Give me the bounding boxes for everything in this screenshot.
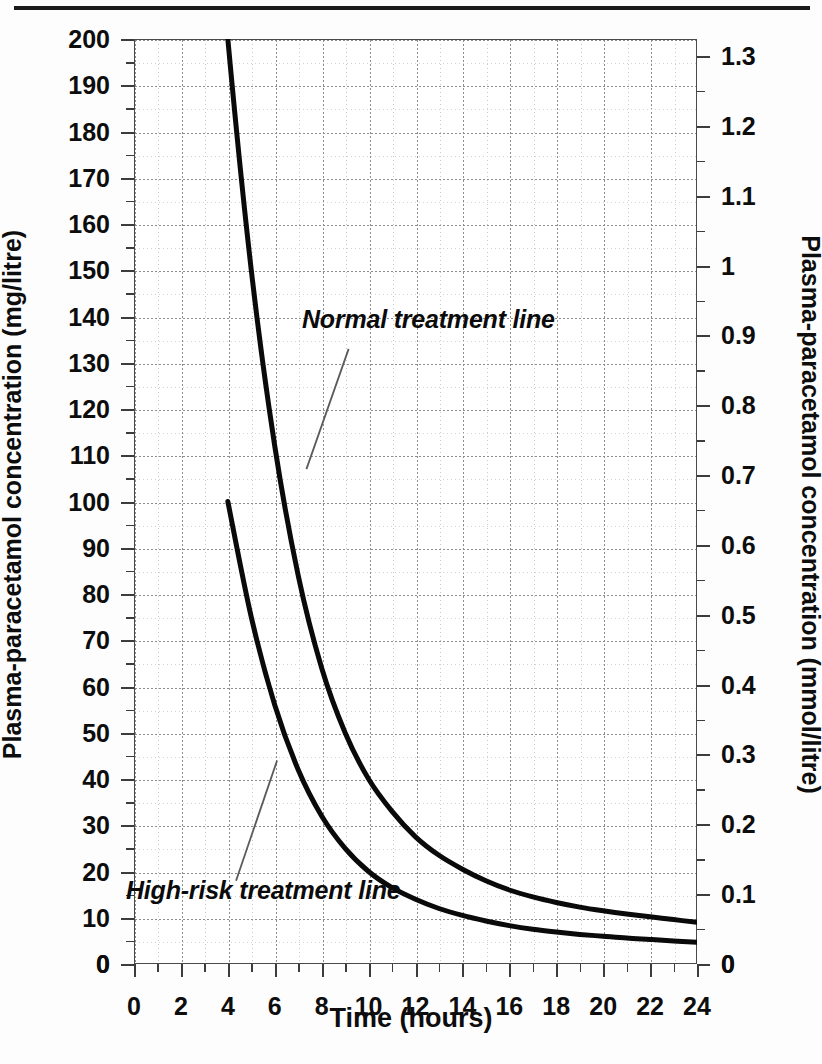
y-axis-tick-left bbox=[121, 825, 134, 827]
x-axis-tick bbox=[322, 964, 324, 977]
y-axis-tick-right-minor bbox=[697, 161, 705, 162]
y-axis-tick-left bbox=[126, 710, 134, 711]
annotation-normal-treatment-line: Normal treatment line bbox=[302, 305, 555, 334]
y-axis-tick-right bbox=[697, 405, 710, 407]
y-axis-tick-right-minor bbox=[697, 929, 705, 930]
y-axis-tick-left bbox=[121, 363, 134, 365]
x-axis-tick bbox=[674, 964, 675, 972]
y-axis-tick-right bbox=[697, 824, 710, 826]
y-axis-tick-label-right: 1.2 bbox=[721, 113, 811, 138]
x-axis-tick bbox=[228, 964, 230, 977]
x-axis-tick bbox=[416, 964, 418, 977]
x-axis-tick bbox=[556, 964, 558, 977]
x-axis-tick bbox=[627, 964, 628, 972]
y-axis-tick-left bbox=[121, 455, 134, 457]
y-axis-tick-left bbox=[121, 224, 134, 226]
y-axis-tick-left bbox=[126, 386, 134, 387]
x-axis-tick bbox=[697, 964, 699, 977]
y-axis-tick-right bbox=[697, 196, 710, 198]
normal-treatment-curve bbox=[217, 39, 697, 922]
y-axis-tick-label-left: 190 bbox=[0, 73, 110, 98]
y-axis-tick-left bbox=[121, 409, 134, 411]
x-axis-tick bbox=[580, 964, 581, 972]
y-axis-origin-label-right: 0 bbox=[721, 952, 811, 977]
y-axis-tick-right-minor bbox=[697, 91, 705, 92]
y-axis-tick-right-minor bbox=[697, 650, 705, 651]
y-axis-tick-left bbox=[121, 270, 134, 272]
y-axis-tick-right bbox=[697, 266, 710, 268]
y-axis-tick-right-minor bbox=[697, 720, 705, 721]
x-axis-tick bbox=[439, 964, 440, 972]
y-axis-tick-left bbox=[126, 247, 134, 248]
y-axis-tick-left bbox=[126, 62, 134, 63]
y-axis-tick-right bbox=[697, 126, 710, 128]
y-axis-tick-left bbox=[121, 502, 134, 504]
x-axis-tick bbox=[533, 964, 534, 972]
annotation-high-risk-treatment-line: High-risk treatment line bbox=[126, 876, 400, 905]
y-axis-tick-label-right: 1.3 bbox=[721, 44, 811, 69]
y-axis-tick-right bbox=[697, 475, 710, 477]
x-axis-tick bbox=[275, 964, 277, 977]
y-axis-tick-left bbox=[121, 85, 134, 87]
y-axis-tick-right-minor bbox=[697, 370, 705, 371]
y-axis-tick-left bbox=[126, 848, 134, 849]
x-axis-tick bbox=[369, 964, 371, 977]
y-axis-tick-right-minor bbox=[697, 859, 705, 860]
y-axis-origin-label-left: 0 bbox=[0, 952, 110, 977]
y-axis-tick-left bbox=[121, 594, 134, 596]
y-axis-tick-label-left: 180 bbox=[0, 119, 110, 144]
y-axis-tick-right-minor bbox=[697, 301, 705, 302]
y-axis-tick-left bbox=[121, 733, 134, 735]
y-axis-tick-left bbox=[121, 548, 134, 550]
y-axis-tick-left bbox=[121, 39, 134, 41]
y-axis-tick-right-minor bbox=[697, 580, 705, 581]
y-axis-tick-right bbox=[697, 545, 710, 547]
y-axis-title-right: Plasma-paracetamol concentration (mmol/l… bbox=[796, 195, 822, 835]
x-axis-tick bbox=[181, 964, 183, 977]
x-axis-tick bbox=[251, 964, 252, 972]
y-axis-tick-left bbox=[126, 201, 134, 202]
y-axis-tick-left bbox=[121, 872, 134, 874]
y-axis-tick-label-left: 20 bbox=[0, 859, 110, 884]
x-axis-tick bbox=[486, 964, 487, 972]
y-axis-tick-label-right: 0.1 bbox=[721, 882, 811, 907]
treatment-line-curves bbox=[134, 39, 697, 964]
y-axis-tick-right-minor bbox=[697, 231, 705, 232]
y-axis-tick-left bbox=[126, 941, 134, 942]
y-axis-tick-label-left: 200 bbox=[0, 27, 110, 52]
x-axis-tick bbox=[345, 964, 346, 972]
y-axis-tick-right bbox=[697, 335, 710, 337]
x-axis-tick bbox=[157, 964, 158, 972]
y-axis-tick-left bbox=[121, 640, 134, 642]
y-axis-tick-left bbox=[126, 617, 134, 618]
y-axis-tick-left bbox=[126, 293, 134, 294]
y-axis-tick-right bbox=[697, 615, 710, 617]
y-axis-tick-left bbox=[121, 178, 134, 180]
page-root: 0102030405060708090100110120130140150160… bbox=[0, 0, 822, 1064]
y-axis-tick-right bbox=[697, 685, 710, 687]
y-axis-tick-right bbox=[697, 754, 710, 756]
y-axis-tick-left bbox=[126, 340, 134, 341]
y-axis-tick-left bbox=[126, 525, 134, 526]
y-axis-tick-label-left: 10 bbox=[0, 905, 110, 930]
x-axis-tick bbox=[392, 964, 393, 972]
y-axis-tick-left bbox=[121, 317, 134, 319]
y-axis-tick-left bbox=[126, 108, 134, 109]
y-axis-tick-right-minor bbox=[697, 510, 705, 511]
x-axis-title: Time (hours) bbox=[0, 1003, 822, 1034]
y-axis-tick-right-minor bbox=[697, 440, 705, 441]
y-axis-tick-left bbox=[121, 132, 134, 134]
y-axis-tick-left bbox=[121, 964, 134, 966]
y-axis-tick-left bbox=[126, 802, 134, 803]
y-axis-tick-left bbox=[126, 155, 134, 156]
x-axis-tick bbox=[509, 964, 511, 977]
paracetamol-treatment-nomogram: 0102030405060708090100110120130140150160… bbox=[0, 0, 822, 1064]
x-axis-tick bbox=[298, 964, 299, 972]
x-axis-tick bbox=[134, 964, 136, 977]
y-axis-tick-left bbox=[126, 663, 134, 664]
y-axis-tick-right-minor bbox=[697, 789, 705, 790]
x-axis-tick bbox=[462, 964, 464, 977]
y-axis-tick-left bbox=[121, 687, 134, 689]
y-axis-tick-left bbox=[121, 779, 134, 781]
x-axis-tick bbox=[204, 964, 205, 972]
